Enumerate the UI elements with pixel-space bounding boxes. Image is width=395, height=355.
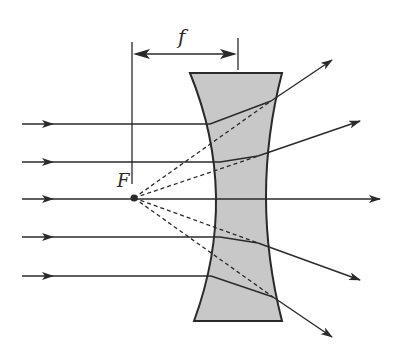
focal-point-label: F (116, 170, 131, 191)
diverging-lens-diagram: f (0, 0, 395, 355)
focal-length-label: f (176, 25, 189, 49)
incident-rays (22, 124, 225, 276)
focal-point (131, 195, 138, 202)
